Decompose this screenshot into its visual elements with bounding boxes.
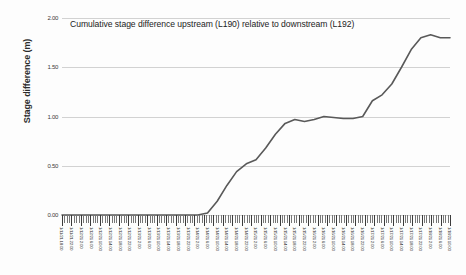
x-tick-mark: [315, 215, 316, 223]
x-tick-mark: [194, 215, 195, 226]
x-tick-mark: [138, 215, 139, 226]
x-tick-mark: [83, 215, 84, 223]
x-tick-label: 1/17/21 6:00: [380, 227, 385, 248]
x-tick-mark: [308, 215, 309, 226]
x-tick-mark: [289, 215, 290, 226]
x-tick-label: 1/15/21 2:00: [253, 227, 258, 248]
x-tick-mark: [221, 215, 222, 223]
y-tick-label: 0.00: [48, 212, 58, 218]
x-tick-mark: [218, 215, 219, 223]
x-tick-mark: [405, 215, 406, 223]
x-tick-mark: [133, 215, 134, 223]
x-tick-mark: [145, 215, 146, 223]
x-tick-mark: [265, 215, 266, 223]
x-tick-mark: [412, 215, 413, 226]
x-tick-mark: [424, 215, 425, 223]
x-tick-mark: [216, 215, 217, 223]
x-tick-mark: [176, 215, 177, 226]
x-tick-mark: [239, 215, 240, 223]
x-tick-mark: [329, 215, 330, 223]
x-tick-mark: [341, 215, 342, 223]
x-tick-mark: [142, 215, 143, 223]
x-tick-mark: [344, 215, 345, 223]
x-tick-mark: [126, 215, 127, 223]
x-tick-mark: [296, 215, 297, 223]
x-tick-mark: [400, 215, 401, 223]
y-tick-label: 0.50: [48, 163, 58, 169]
x-tick-mark: [235, 215, 236, 223]
x-tick-mark: [372, 215, 373, 223]
x-tick-mark: [97, 215, 98, 223]
x-tick-label: 1/16/21 14:00: [341, 227, 346, 251]
x-tick-label: 1/17/21 22:00: [418, 227, 423, 251]
x-tick-mark: [438, 215, 439, 223]
x-tick-mark: [261, 215, 262, 226]
x-tick-mark: [112, 215, 113, 223]
x-tick-mark: [320, 215, 321, 223]
x-tick-label: 1/18/21 10:00: [447, 227, 452, 251]
x-tick-label: 1/13/21 6:00: [147, 227, 152, 248]
x-tick-mark: [419, 215, 420, 223]
x-tick-mark: [71, 215, 72, 226]
x-tick-mark: [171, 215, 172, 223]
x-tick-label: 1/13/21 22:00: [186, 227, 191, 251]
x-tick-mark: [381, 215, 382, 223]
x-tick-mark: [147, 215, 148, 226]
series-line-chart: [62, 18, 450, 215]
x-tick-label: 1/12/21 10:00: [98, 227, 103, 251]
x-tick-mark: [415, 215, 416, 223]
x-tick-label: 1/15/21 14:00: [283, 227, 288, 251]
x-tick-label: 1/18/21 6:00: [438, 227, 443, 248]
x-tick-mark: [403, 215, 404, 226]
x-tick-mark: [152, 215, 153, 223]
x-tick-mark: [346, 215, 347, 226]
x-tick-mark: [180, 215, 181, 223]
x-tick-mark: [204, 215, 205, 226]
x-tick-mark: [199, 215, 200, 223]
x-tick-mark: [116, 215, 117, 223]
x-tick-mark: [197, 215, 198, 223]
x-tick-mark: [159, 215, 160, 223]
x-tick-mark: [131, 215, 132, 223]
x-tick-label: 1/13/21 10:00: [156, 227, 161, 251]
x-tick-label: 1/17/21 14:00: [399, 227, 404, 251]
x-tick-mark: [353, 215, 354, 223]
x-tick-label: 1/13/21 18:00: [176, 227, 181, 251]
x-tick-mark: [282, 215, 283, 223]
x-tick-mark: [202, 215, 203, 223]
x-tick-mark: [407, 215, 408, 223]
x-tick-mark: [393, 215, 394, 226]
x-tick-mark: [100, 215, 101, 226]
x-tick-mark: [379, 215, 380, 223]
x-tick-mark: [291, 215, 292, 223]
x-tick-mark: [284, 215, 285, 223]
x-tick-label: 1/15/21 10:00: [273, 227, 278, 251]
x-tick-label: 1/14/21 18:00: [234, 227, 239, 251]
chart-container: Stage difference (m) Cumulative stage di…: [0, 0, 466, 275]
x-tick-mark: [187, 215, 188, 223]
x-tick-label: 1/12/21 18:00: [118, 227, 123, 251]
x-tick-label: 1/14/21 22:00: [244, 227, 249, 251]
x-tick-mark: [109, 215, 110, 226]
x-tick-mark: [95, 215, 96, 223]
x-tick-mark: [287, 215, 288, 223]
x-tick-mark: [114, 215, 115, 223]
x-tick-mark: [249, 215, 250, 223]
x-tick-label: 1/15/21 6:00: [263, 227, 268, 248]
x-tick-mark: [277, 215, 278, 223]
x-tick-mark: [74, 215, 75, 223]
x-tick-mark: [173, 215, 174, 223]
x-tick-label: 1/18/21 2:00: [428, 227, 433, 248]
x-tick-mark: [280, 215, 281, 226]
x-tick-mark: [64, 215, 65, 223]
x-tick-mark: [370, 215, 371, 223]
x-tick-mark: [256, 215, 257, 223]
x-tick-mark: [318, 215, 319, 226]
x-tick-mark: [377, 215, 378, 223]
x-tick-mark: [367, 215, 368, 223]
x-tick-mark: [244, 215, 245, 223]
x-tick-mark: [93, 215, 94, 223]
x-tick-mark: [168, 215, 169, 223]
x-tick-mark: [391, 215, 392, 223]
y-axis-title: Stage difference (m): [22, 6, 32, 156]
